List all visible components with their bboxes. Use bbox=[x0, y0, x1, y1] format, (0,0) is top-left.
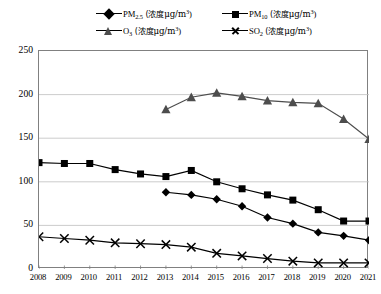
x-tick-label: 2011 bbox=[101, 272, 127, 282]
x-tick-label: 2015 bbox=[203, 272, 229, 282]
square-marker-icon bbox=[222, 8, 248, 20]
x-tick-label: 2020 bbox=[330, 272, 356, 282]
legend-item-so2-label: SO2 (浓度μg/m3) bbox=[248, 25, 312, 37]
x-tick-label: 2021 bbox=[355, 272, 381, 282]
x-tick-label: 2014 bbox=[177, 272, 203, 282]
legend-item-pm25[interactable]: PM2.5 (浓度μg/m3) bbox=[96, 5, 222, 22]
legend-row-1: PM2.5 (浓度μg/m3) PM10 (浓度μg/m3) bbox=[96, 5, 348, 22]
x-tick-label: 2009 bbox=[50, 272, 76, 282]
x-tick-label: 2010 bbox=[76, 272, 102, 282]
y-tick-label: 150 bbox=[2, 132, 33, 142]
x-tick-label: 2017 bbox=[253, 272, 279, 282]
legend-item-o3[interactable]: O3 (浓度μg/m3) bbox=[96, 22, 222, 39]
legend-item-pm10-label: PM10 (浓度μg/m3) bbox=[248, 8, 316, 20]
x-tick-label: 2018 bbox=[279, 272, 305, 282]
legend-row-2: O3 (浓度μg/m3) SO2 (浓度μg/m3) bbox=[96, 22, 348, 39]
series-O3 (浓度μg/m³) bbox=[161, 88, 369, 143]
x-tick-label: 2019 bbox=[304, 272, 330, 282]
x-tick-label: 2016 bbox=[228, 272, 254, 282]
legend-item-pm10[interactable]: PM10 (浓度μg/m3) bbox=[222, 5, 348, 22]
y-tick-label: 50 bbox=[2, 219, 33, 229]
diamond-marker-icon bbox=[96, 8, 122, 20]
y-tick-label: 200 bbox=[2, 89, 33, 99]
series-PM10 (浓度μg/m³) bbox=[39, 159, 369, 224]
x-axis: 2008200920102011201220132014201520162017… bbox=[38, 272, 368, 288]
chart-legend: PM2.5 (浓度μg/m3) PM10 (浓度μg/m3) O3 (浓度μg/… bbox=[96, 5, 348, 39]
legend-item-pm25-label: PM2.5 (浓度μg/m3) bbox=[122, 8, 192, 20]
legend-item-o3-label: O3 (浓度μg/m3) bbox=[122, 25, 181, 37]
triangle-marker-icon bbox=[96, 25, 122, 37]
x-tick-label: 2008 bbox=[25, 272, 51, 282]
x-tick-label: 2013 bbox=[152, 272, 178, 282]
x-tick-label: 2012 bbox=[127, 272, 153, 282]
cross-marker-icon bbox=[222, 25, 248, 37]
x-tick-marks bbox=[39, 266, 369, 270]
plot-area bbox=[38, 50, 368, 268]
y-tick-label: 100 bbox=[2, 176, 33, 186]
y-tick-label: 250 bbox=[2, 45, 33, 55]
plot-svg bbox=[39, 51, 369, 269]
series-SO2 (浓度μg/m³) bbox=[39, 233, 369, 268]
legend-item-so2[interactable]: SO2 (浓度μg/m3) bbox=[222, 22, 348, 39]
